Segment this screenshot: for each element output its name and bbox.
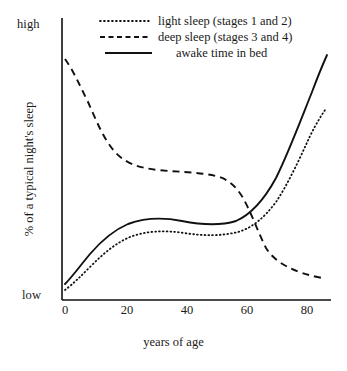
chart-plot-area xyxy=(0,0,347,371)
y-axis-low-label: low xyxy=(22,288,41,303)
y-axis-high-label: high xyxy=(17,17,40,32)
x-tick-label-40: 40 xyxy=(181,303,194,318)
x-tick-label-20: 20 xyxy=(121,303,134,318)
x-tick-label-0: 0 xyxy=(62,303,68,318)
legend-label-awake-time-in-bed: awake time in bed xyxy=(176,46,267,61)
y-axis-title: % of a typical night's sleep xyxy=(22,102,36,237)
legend-label-light-sleep: light sleep (stages 1 and 2) xyxy=(158,14,292,29)
x-tick-label-80: 80 xyxy=(301,303,314,318)
series-line-deep-sleep xyxy=(65,59,322,278)
legend-label-deep-sleep: deep sleep (stages 3 and 4) xyxy=(158,30,292,45)
series-line-awake-time-in-bed xyxy=(65,55,327,284)
sleep-stages-chart: light sleep (stages 1 and 2) deep sleep … xyxy=(0,0,347,371)
x-tick-label-60: 60 xyxy=(241,303,254,318)
y-axis-title-wrapper: % of a typical night's sleep xyxy=(19,69,37,269)
x-axis-title: years of age xyxy=(0,335,347,350)
